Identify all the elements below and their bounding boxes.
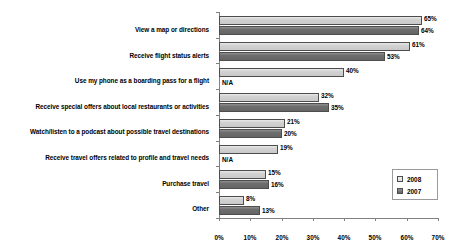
bar-2008	[219, 196, 244, 205]
bar-value-label: 13%	[262, 207, 275, 214]
bar-value-label: 53%	[387, 53, 400, 60]
bar-value-label: 16%	[271, 181, 284, 188]
value-axis-tick	[375, 218, 376, 221]
category-axis-tick	[216, 89, 219, 90]
legend-item-2008[interactable]: 2008	[397, 174, 421, 184]
bar-2007	[219, 52, 385, 61]
bar-value-label: 61%	[412, 41, 425, 48]
value-axis-tick-label: 40%	[329, 234, 359, 241]
category-axis-tick	[216, 63, 219, 64]
value-axis-tick-label: 50%	[360, 234, 390, 241]
bar-2008	[219, 170, 266, 179]
bar-2007	[219, 206, 260, 215]
bar-2007	[219, 129, 282, 138]
category-label: Receive flight status alerts	[0, 52, 209, 60]
bar-value-label: 15%	[268, 169, 281, 176]
value-axis-tick-label: 70%	[423, 234, 453, 241]
value-axis-tick-label: 0%	[204, 234, 234, 241]
bar-value-label: 19%	[280, 144, 293, 151]
bar-value-label: 64%	[421, 27, 434, 34]
legend-label: 2008	[407, 176, 421, 183]
category-label: Watch/listen to a podcast about possible…	[0, 128, 209, 136]
category-axis-tick	[216, 141, 219, 142]
bar-2008	[219, 16, 422, 25]
bar-na-label: N/A	[222, 156, 233, 163]
category-axis-tick	[216, 38, 219, 39]
bar-2007	[219, 180, 269, 189]
bar-2008	[219, 119, 285, 128]
bar-2007	[219, 103, 329, 112]
bar-chart: View a map or directions Receive flight …	[0, 0, 456, 241]
legend-item-2007[interactable]: 2007	[397, 186, 421, 196]
category-label: View a map or directions	[0, 26, 209, 34]
bar-2008	[219, 42, 410, 51]
value-axis-tick	[219, 218, 220, 221]
legend-label: 2007	[407, 188, 421, 195]
category-label: Receive travel offers related to profile…	[0, 154, 209, 162]
legend-swatch-icon	[397, 188, 403, 194]
bar-2008	[219, 93, 319, 102]
value-axis-tick	[344, 218, 345, 221]
chart-legend: 2008 2007	[392, 169, 438, 200]
value-axis-tick-label: 60%	[392, 234, 422, 241]
category-axis-tick	[216, 115, 219, 116]
bar-2007	[219, 26, 419, 35]
value-axis-tick	[282, 218, 283, 221]
value-axis-tick	[313, 218, 314, 221]
category-label: Receive special offers about local resta…	[0, 103, 209, 111]
value-axis-tick-label: 20%	[267, 234, 297, 241]
value-axis-tick	[407, 218, 408, 221]
bar-na-label: N/A	[222, 79, 233, 86]
category-axis-tick	[216, 12, 219, 13]
category-label: Use my phone as a boarding pass for a fl…	[0, 77, 209, 85]
bar-value-label: 35%	[331, 104, 344, 111]
bar-value-label: 21%	[287, 118, 300, 125]
bar-value-label: 65%	[424, 15, 437, 22]
category-axis-tick	[216, 192, 219, 193]
category-label: Other	[0, 205, 209, 213]
bar-2008	[219, 145, 278, 154]
category-label: Purchase travel	[0, 180, 209, 188]
bar-value-label: 20%	[284, 130, 297, 137]
legend-swatch-icon	[397, 176, 403, 182]
bar-value-label: 32%	[321, 92, 334, 99]
value-axis-tick-label: 10%	[235, 234, 265, 241]
value-axis-line	[219, 218, 438, 219]
category-axis-tick	[216, 166, 219, 167]
value-axis-tick	[250, 218, 251, 221]
value-axis-tick	[438, 218, 439, 221]
bar-2008	[219, 68, 344, 77]
category-axis-labels: View a map or directions Receive flight …	[0, 12, 213, 219]
bar-value-label: 40%	[346, 67, 359, 74]
value-axis-tick-label: 30%	[298, 234, 328, 241]
bar-value-label: 8%	[246, 195, 255, 202]
